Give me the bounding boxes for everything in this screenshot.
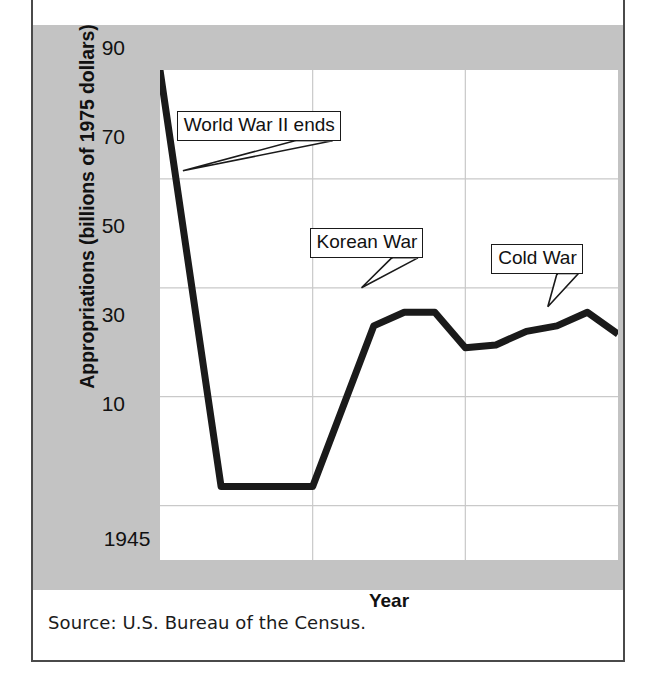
chart-svg	[160, 70, 618, 560]
y-tick-label-90: 90	[65, 37, 125, 58]
y-tick-label-70: 70	[65, 126, 125, 147]
y-tick-label-30: 30	[65, 304, 125, 325]
annotation-cold-war: Cold War	[491, 244, 582, 274]
annotation-leader-lines	[183, 140, 578, 307]
y-tick-label-50: 50	[65, 215, 125, 236]
y-tick-label-10: 10	[65, 393, 125, 414]
chart-panel: Appropriations (billions of 1975 dollars…	[33, 25, 623, 590]
annotation-world-war-ii-ends: World War II ends	[177, 111, 341, 141]
plot-area	[160, 70, 618, 560]
source-note: Source: U.S. Bureau of the Census.	[48, 612, 366, 633]
x-tick-label-1945: 1945	[82, 528, 172, 549]
figure-container: Appropriations (billions of 1975 dollars…	[0, 0, 659, 678]
x-axis-title: Year	[160, 590, 618, 612]
annotation-korean-war: Korean War	[310, 228, 424, 258]
y-axis-title: Appropriations (billions of 1975 dollars…	[76, 7, 99, 407]
